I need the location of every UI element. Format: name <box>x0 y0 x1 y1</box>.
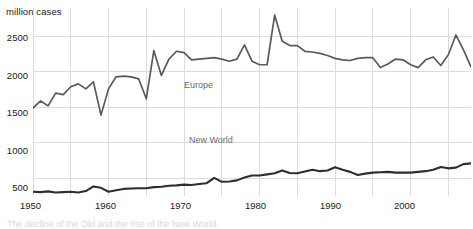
chart-svg <box>33 8 471 196</box>
figure-caption: The decline of the Old and the rise of t… <box>7 219 467 229</box>
y-tick-1500: 1500 <box>0 107 28 118</box>
series-line-europe <box>33 15 471 115</box>
x-tick-1950: 1950 <box>20 200 41 211</box>
series-label-new-world: New World <box>189 135 233 145</box>
y-tick-500: 500 <box>0 182 28 193</box>
y-tick-2000: 2000 <box>0 70 28 81</box>
y-tick-1000: 1000 <box>0 145 28 156</box>
x-tick-1990: 1990 <box>320 200 341 211</box>
x-tick-1970: 1970 <box>170 200 191 211</box>
plot-area <box>33 8 471 196</box>
x-tick-2000: 2000 <box>394 200 415 211</box>
x-tick-1980: 1980 <box>245 200 266 211</box>
series-label-europe: Europe <box>184 80 213 90</box>
series-lines <box>33 15 471 192</box>
chart-figure: million cases 2500 2000 1500 1000 500 19… <box>0 0 473 229</box>
cropped-title-fragment <box>47 0 69 3</box>
x-tick-1960: 1960 <box>95 200 116 211</box>
y-tick-2500: 2500 <box>0 32 28 43</box>
